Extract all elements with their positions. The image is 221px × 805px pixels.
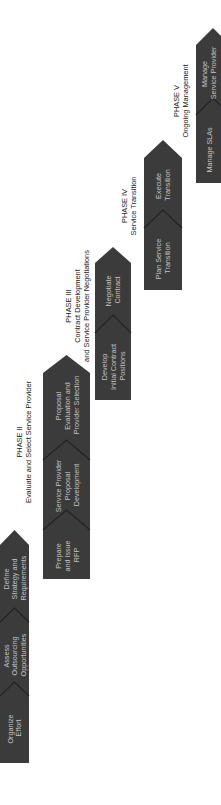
phase-4-label: PHASE IV Service Transition (120, 177, 138, 236)
phase-1-strip: Organize Effort Assess Outsourcing Oppor… (0, 530, 29, 763)
phase-2-title: PHASE II (15, 426, 24, 457)
phase-3-subtitle-2: and Service Provider Negotiations (82, 250, 91, 362)
phase-5-label: PHASE V Ongoing Management (172, 64, 190, 137)
step-manage-slas: Manage SLAs (205, 127, 214, 173)
step-plan-service-transition: Plan Service Transition (154, 237, 172, 279)
phase-4-title: PHASE IV (120, 189, 129, 223)
phase-5-strip: Manage SLAs Manage Service Provider (196, 28, 221, 183)
phase-3-label: PHASE III Contract Development and Servi… (64, 250, 91, 362)
step-negotiate-contract: Negotiate Contract (104, 274, 122, 307)
phase-4-subtitle: Service Transition (129, 177, 138, 236)
phase-2-strip: Prepare and Issue RFP Service Provider P… (43, 355, 90, 579)
phase-3-title: PHASE III (64, 289, 73, 322)
phase-4-strip: Plan Service Transition Execute Transiti… (144, 140, 182, 290)
phase-3-strip: Develop Initial Contract Positions Negot… (95, 247, 131, 400)
outsourcing-phases-diagram: Organize Effort Assess Outsourcing Oppor… (0, 0, 221, 805)
phase-5-title: PHASE V (172, 85, 181, 117)
phase-3-subtitle-1: Contract Development (73, 269, 82, 343)
phase-5-subtitle: Ongoing Management (181, 64, 190, 137)
step-execute-transition: Execute Transition (154, 169, 172, 200)
phase-2-subtitle: Evaluate and Select Service Provider (24, 380, 33, 503)
phase-2-label: PHASE II Evaluate and Select Service Pro… (15, 380, 33, 503)
